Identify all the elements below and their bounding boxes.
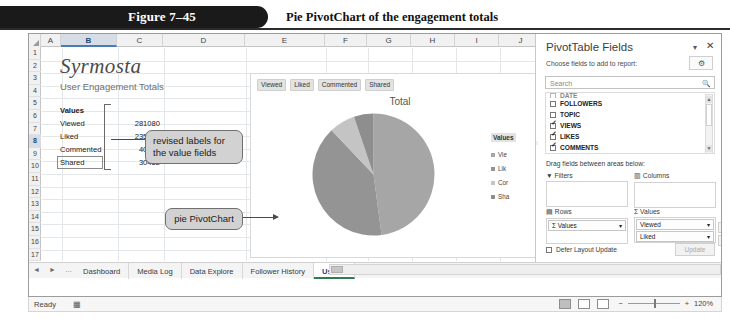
field-checkbox[interactable] [550, 123, 556, 129]
chart-filter-viewed[interactable]: Viewed [257, 79, 286, 91]
area-filters-dropzone[interactable] [546, 181, 628, 207]
page-break-view-icon[interactable] [597, 299, 609, 309]
page-layout-view-icon[interactable] [578, 299, 590, 309]
area-values-dropzone[interactable]: Viewed ▾ Liked ▾ [634, 217, 716, 243]
chevron-down-icon[interactable]: ▾ [619, 222, 622, 230]
sheet-tab-media-log[interactable]: Media Log [129, 263, 181, 279]
row-header-13[interactable]: 13 [29, 198, 41, 211]
column-header-d[interactable]: D [163, 34, 245, 47]
row-header-17[interactable]: 17 [29, 249, 41, 262]
values-pill-liked[interactable]: Liked ▾ [636, 231, 714, 242]
column-header-f[interactable]: F [325, 34, 367, 47]
column-header-i[interactable]: I [455, 34, 499, 47]
row-header-11[interactable]: 11 [29, 173, 41, 186]
zoom-slider-knob[interactable] [654, 299, 657, 308]
row-header-10[interactable]: 10 [29, 160, 41, 173]
macro-record-icon[interactable]: ▦ [73, 300, 81, 309]
normal-view-icon[interactable] [559, 299, 571, 309]
field-item-date[interactable]: DATE [546, 93, 714, 98]
horizontal-scroll-thumb[interactable] [331, 266, 343, 273]
row-header-5[interactable]: 5 [29, 97, 41, 110]
row-header-12[interactable]: 12 [29, 186, 41, 199]
area-rows-dropzone[interactable]: Σ Values ▾ [546, 218, 628, 244]
field-search-input[interactable]: Search 🔍 [545, 76, 715, 89]
chart-filter-liked[interactable]: Liked [290, 79, 314, 91]
column-header-g[interactable]: G [367, 34, 411, 47]
sheet-more-icon[interactable]: … [65, 266, 72, 273]
column-header-e[interactable]: E [245, 34, 325, 47]
row-header-9[interactable]: 9 [29, 148, 41, 161]
zoom-out-icon[interactable]: − [618, 299, 622, 308]
rows-pill-values[interactable]: Σ Values ▾ [548, 220, 626, 231]
sheet-nav-buttons[interactable]: ◄ ► … [33, 266, 72, 273]
field-item-views[interactable]: VIEWS [546, 120, 714, 131]
row-header-14[interactable]: 14 [29, 211, 41, 224]
field-checkbox[interactable] [550, 112, 556, 118]
defer-checkbox[interactable] [546, 247, 552, 253]
pie-pivotchart[interactable]: Viewed Liked Commented Shared Total Valu… [250, 73, 548, 258]
sheet-prev-icon[interactable]: ◄ [33, 266, 40, 273]
area-values[interactable]: Σ Values Viewed ▾ Liked ▾ ▲ ▼ [634, 208, 716, 243]
defer-layout-update[interactable]: Defer Layout Update [546, 246, 617, 253]
chart-filter-buttons[interactable]: Viewed Liked Commented Shared [257, 79, 394, 91]
column-header-b[interactable]: B [61, 34, 117, 47]
select-all-corner[interactable] [29, 34, 41, 47]
row-header-1[interactable]: 1 [29, 47, 41, 60]
area-filters[interactable]: ▼ Filters [546, 172, 628, 207]
chevron-down-icon[interactable]: ▾ [707, 233, 710, 241]
chart-filter-shared[interactable]: Shared [365, 79, 394, 91]
values-move-down-icon[interactable]: ▼ [718, 235, 722, 246]
field-item-shares[interactable]: SHARES [546, 153, 714, 154]
field-item-likes[interactable]: LIKES [546, 131, 714, 142]
field-checkbox[interactable] [550, 145, 556, 151]
update-button[interactable]: Update [675, 243, 715, 256]
pie-slice-viewed[interactable] [374, 114, 435, 235]
zoom-slider[interactable] [628, 303, 680, 304]
chart-filter-commented[interactable]: Commented [318, 79, 361, 91]
chevron-down-icon[interactable]: ▾ [707, 221, 710, 229]
field-checkbox[interactable] [550, 93, 556, 98]
field-list[interactable]: DATEFOLLOWERSTOPICVIEWSLIKESCOMMENTSSHAR… [545, 92, 715, 154]
sheet-next-icon[interactable]: ► [49, 266, 56, 273]
pane-menu-icon[interactable]: ▾ [693, 43, 697, 52]
field-checkbox[interactable] [550, 101, 556, 107]
sheet-tab-follower-history[interactable]: Follower History [243, 263, 314, 279]
zoom-level[interactable]: 120% [694, 299, 713, 308]
row-header-8[interactable]: 8 [29, 135, 41, 148]
field-item-followers[interactable]: FOLLOWERS [546, 98, 714, 109]
area-columns-dropzone[interactable] [634, 182, 716, 208]
zoom-in-icon[interactable]: + [685, 299, 689, 308]
row-header-15[interactable]: 15 [29, 223, 41, 236]
sheet-tab-data-explore[interactable]: Data Explore [182, 263, 243, 279]
row-header-7[interactable]: 7 [29, 123, 41, 136]
pane-close-icon[interactable]: ✕ [706, 40, 714, 51]
row-header-6[interactable]: 6 [29, 110, 41, 123]
column-header-a[interactable]: A [41, 34, 61, 47]
column-header-h[interactable]: H [411, 34, 455, 47]
row-header-3[interactable]: 3 [29, 72, 41, 85]
zoom-control[interactable]: − + 120% [618, 299, 713, 308]
field-list-scrollbar[interactable]: ▲ ▼ [705, 94, 713, 154]
row-header-16[interactable]: 16 [29, 236, 41, 249]
field-scroll-up-icon[interactable]: ▲ [706, 96, 712, 103]
field-item-topic[interactable]: TOPIC [546, 109, 714, 120]
view-buttons[interactable] [559, 299, 609, 309]
legend-item-label: Cor [498, 179, 508, 186]
column-header-c[interactable]: C [117, 34, 163, 47]
row-header-4[interactable]: 4 [29, 85, 41, 98]
horizontal-scrollbar[interactable] [329, 264, 721, 275]
field-scroll-down-icon[interactable]: ▼ [706, 145, 712, 152]
values-move-up-icon[interactable]: ▲ [718, 222, 722, 233]
field-item-comments[interactable]: COMMENTS [546, 142, 714, 153]
area-filters-label: Filters [554, 172, 572, 179]
area-rows[interactable]: ▤ Rows Σ Values ▾ [546, 208, 628, 244]
pane-settings-button[interactable]: ⚙ [689, 56, 713, 70]
area-columns[interactable]: ▥ Columns [634, 172, 716, 208]
values-pill-viewed[interactable]: Viewed ▾ [636, 219, 714, 230]
field-scroll-thumb[interactable] [706, 104, 712, 126]
pane-grip-icon[interactable]: ⁞ [536, 140, 541, 154]
field-checkbox[interactable] [550, 134, 556, 140]
pivottable-fields-pane: ⁞ PivotTable Fields ▾ ✕ Choose fields to… [535, 34, 722, 262]
sheet-tab-dashboard[interactable]: Dashboard [75, 263, 129, 279]
row-header-2[interactable]: 2 [29, 60, 41, 73]
